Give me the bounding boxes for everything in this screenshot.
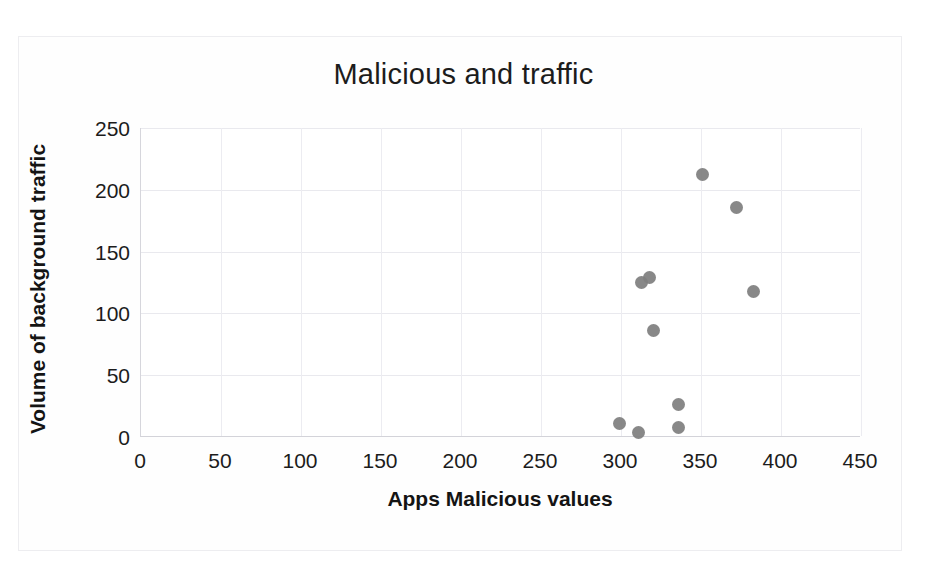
y-tick-label: 100 xyxy=(70,303,130,324)
scatter-point xyxy=(696,168,709,181)
gridline-vertical xyxy=(861,128,862,436)
gridline-vertical xyxy=(221,128,222,436)
x-tick-label: 100 xyxy=(265,450,335,471)
gridline-horizontal xyxy=(141,128,860,129)
x-tick-label: 50 xyxy=(185,450,255,471)
x-tick-label: 350 xyxy=(665,450,735,471)
scatter-point xyxy=(747,285,760,298)
gridline-vertical xyxy=(621,128,622,436)
y-axis-tick-labels: 050100150200250 xyxy=(62,128,130,437)
y-tick-label: 150 xyxy=(70,241,130,262)
x-tick-label: 150 xyxy=(345,450,415,471)
gridline-vertical xyxy=(541,128,542,436)
scatter-point xyxy=(613,417,626,430)
y-tick-label: 200 xyxy=(70,179,130,200)
x-tick-label: 200 xyxy=(425,450,495,471)
gridline-horizontal xyxy=(141,252,860,253)
x-axis-tick-labels: 050100150200250300350400450 xyxy=(140,450,860,478)
x-tick-label: 0 xyxy=(105,450,175,471)
y-tick-label: 50 xyxy=(70,365,130,386)
scatter-point xyxy=(643,271,656,284)
plot-area xyxy=(140,128,860,437)
x-tick-label: 400 xyxy=(745,450,815,471)
y-tick-label: 250 xyxy=(70,118,130,139)
gridline-horizontal xyxy=(141,375,860,376)
x-axis-title: Apps Malicious values xyxy=(140,487,860,511)
chart-title: Malicious and traffic xyxy=(0,58,927,91)
scatter-point xyxy=(672,398,685,411)
y-tick-label: 0 xyxy=(70,427,130,448)
gridline-vertical xyxy=(381,128,382,436)
gridline-vertical xyxy=(301,128,302,436)
x-tick-label: 250 xyxy=(505,450,575,471)
scatter-point xyxy=(730,201,743,214)
gridline-horizontal xyxy=(141,190,860,191)
y-axis-title: Volume of background traffic xyxy=(26,109,50,469)
x-tick-label: 300 xyxy=(585,450,655,471)
gridline-vertical xyxy=(781,128,782,436)
x-tick-label: 450 xyxy=(825,450,895,471)
scatter-point xyxy=(647,324,660,337)
gridline-horizontal xyxy=(141,313,860,314)
gridline-vertical xyxy=(461,128,462,436)
chart-container: Malicious and traffic 050100150200250 05… xyxy=(0,0,927,576)
scatter-point xyxy=(672,421,685,434)
scatter-point xyxy=(632,426,645,439)
